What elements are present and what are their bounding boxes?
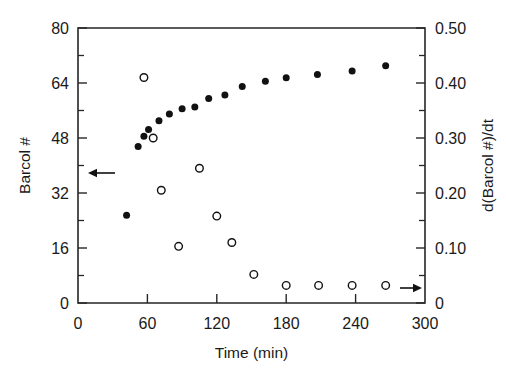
left-axis-arrow — [88, 169, 115, 177]
y2-axis-tick-label: 0 — [435, 295, 444, 312]
axes-layer — [78, 28, 425, 303]
data-point — [250, 271, 258, 279]
scatter-plot: 0163248648000.100.200.300.400.5006012018… — [0, 0, 506, 375]
data-point — [149, 134, 157, 142]
data-point — [155, 117, 162, 124]
data-point — [140, 74, 148, 82]
y-axis-tick-label: 80 — [51, 20, 69, 37]
ticks-layer — [78, 28, 425, 303]
y2-axis-tick-label: 0.20 — [435, 185, 466, 202]
y2-axis-tick-label: 0.30 — [435, 130, 466, 147]
series-derivative — [140, 74, 389, 290]
y2-axis-tick-label: 0.40 — [435, 75, 466, 92]
x-axis-tick-label: 60 — [139, 315, 157, 332]
x-axis-title: Time (min) — [215, 344, 288, 361]
data-point — [282, 282, 290, 290]
right-axis-arrow — [400, 284, 422, 292]
x-axis-tick-label: 240 — [342, 315, 369, 332]
data-point — [205, 95, 212, 102]
data-point — [382, 62, 389, 69]
series-barcol — [123, 62, 389, 219]
data-point — [283, 74, 290, 81]
y2-axis-tick-label: 0.50 — [435, 20, 466, 37]
data-point — [135, 143, 142, 150]
data-point — [221, 92, 228, 99]
data-point — [239, 83, 246, 90]
data-point — [315, 282, 323, 290]
data-point — [213, 212, 221, 220]
y-axis-tick-label: 32 — [51, 185, 69, 202]
data-point — [314, 71, 321, 78]
x-axis-tick-label: 300 — [412, 315, 439, 332]
data-point — [179, 105, 186, 112]
data-point — [191, 104, 198, 111]
data-point — [348, 282, 356, 290]
data-point — [140, 133, 147, 140]
arrow-head — [88, 169, 97, 177]
y-axis-tick-label: 64 — [51, 75, 69, 92]
data-point — [145, 126, 152, 133]
y-axis-title: Barcol # — [16, 137, 33, 194]
data-point — [157, 186, 165, 194]
x-axis-tick-label: 120 — [203, 315, 230, 332]
data-point — [262, 78, 269, 85]
y-axis-tick-label: 48 — [51, 130, 69, 147]
tick-labels-layer: 0163248648000.100.200.300.400.5006012018… — [51, 20, 466, 332]
data-point — [175, 243, 183, 251]
x-axis-tick-label: 0 — [74, 315, 83, 332]
data-point — [196, 164, 204, 172]
x-axis-tick-label: 180 — [273, 315, 300, 332]
data-points-layer — [123, 62, 389, 289]
chart-figure: 0163248648000.100.200.300.400.5006012018… — [0, 0, 506, 375]
y-axis-tick-label: 16 — [51, 240, 69, 257]
data-point — [228, 239, 236, 247]
data-point — [382, 282, 390, 290]
data-point — [166, 110, 173, 117]
y2-axis-title: d(Barcol #)/dt — [479, 118, 496, 212]
data-point — [123, 212, 130, 219]
data-point — [349, 67, 356, 74]
y-axis-tick-label: 0 — [60, 295, 69, 312]
y2-axis-tick-label: 0.10 — [435, 240, 466, 257]
plot-frame — [78, 28, 425, 303]
arrow-head — [413, 284, 422, 292]
